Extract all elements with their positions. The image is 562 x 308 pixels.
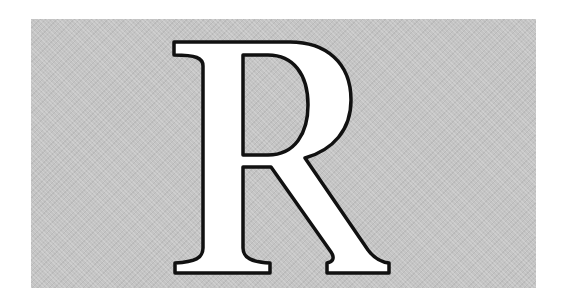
- letter-r-glyph: [0, 0, 562, 308]
- letter-r-outline: [174, 42, 389, 273]
